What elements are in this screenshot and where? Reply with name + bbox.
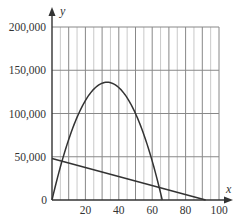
y-tick-label: 0 <box>41 194 47 206</box>
series-layer <box>52 82 206 200</box>
axes: x y <box>49 4 234 204</box>
y-tick-label: 100,000 <box>9 108 47 121</box>
line-curve <box>52 158 206 200</box>
y-axis-label: y <box>59 4 66 18</box>
x-axis-arrow-icon <box>224 197 233 204</box>
x-tick-label: 20 <box>80 204 92 215</box>
y-axis-arrow-icon <box>49 7 56 16</box>
y-tick-label: 200,000 <box>9 21 47 34</box>
y-tick-label: 150,000 <box>9 64 47 77</box>
tick-labels: 20406080100050,000100,000150,000200,000 <box>9 21 228 215</box>
chart: x y 20406080100050,000100,000150,000200,… <box>0 0 236 215</box>
x-tick-label: 100 <box>210 204 228 215</box>
y-tick-label: 50,000 <box>14 151 46 164</box>
x-tick-label: 80 <box>180 204 192 215</box>
x-axis-label: x <box>225 182 232 196</box>
x-tick-label: 40 <box>113 204 125 215</box>
x-tick-label: 60 <box>146 204 158 215</box>
